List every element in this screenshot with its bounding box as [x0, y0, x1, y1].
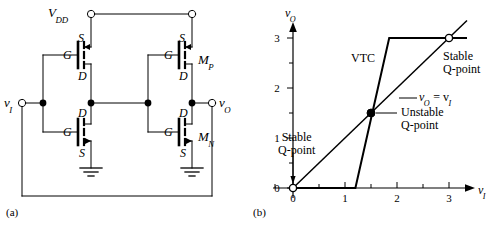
label-left-pmos-drain: D: [78, 70, 87, 82]
label-left-pmos-source: S: [78, 32, 84, 44]
terminal-vo: [208, 99, 215, 106]
label-left-nmos-gate: G: [63, 126, 72, 138]
panel-b-vtc-plot: 0 1 2 3 0 1 2 3 vO vI VTC vO = vI Unstab…: [245, 0, 491, 228]
label-left-pmos-gate: G: [63, 49, 72, 61]
annotation-stable-q-point-left-line2: Q-point: [278, 143, 315, 157]
q-point-stable-right: [445, 34, 452, 41]
terminal-vi: [18, 99, 25, 106]
leader-stable-left-arrow: [290, 176, 295, 184]
label-vo: vO: [219, 96, 231, 112]
label-right-nmos-drain: D: [179, 107, 188, 119]
annotation-unstable-q-point: Unstable Q-point: [401, 106, 444, 133]
label-mp: MP: [198, 53, 214, 69]
y-ticklabel-0: 0: [271, 182, 283, 194]
label-right-nmos-source: S: [180, 147, 186, 159]
panel-a-circuit-diagram: VDD vI vO S G D D G S S G D D G S MP MN …: [0, 0, 245, 228]
annotation-unstable-q-point-line2: Q-point: [401, 118, 438, 132]
arrow-right-nmos-source: [186, 138, 192, 144]
x-axis-arrowhead: [465, 184, 475, 192]
label-left-nmos-source: S: [79, 147, 85, 159]
label-left-nmos-drain: D: [78, 107, 87, 119]
label-right-pmos-drain: D: [179, 70, 188, 82]
annotation-stable-q-point-left: Stable Q-point: [278, 131, 315, 158]
label-mn: MN: [198, 130, 215, 146]
caption-panel-a: (a): [6, 206, 18, 218]
y-ticklabel-3: 3: [271, 32, 283, 44]
y-axis-label: vO: [285, 7, 296, 23]
annotation-stable-q-point-left-line1: Stable: [282, 130, 312, 144]
x-ticklabel-1: 1: [339, 192, 351, 204]
label-right-pmos-source: S: [179, 32, 185, 44]
x-ticklabel-2: 2: [391, 192, 403, 204]
arrow-left-nmos-source: [85, 138, 91, 144]
x-ticklabel-3: 3: [443, 192, 455, 204]
label-right-nmos-gate: G: [164, 126, 173, 138]
q-point-stable-left: [289, 184, 296, 191]
label-vdd: VDD: [48, 6, 69, 22]
x-ticklabel-0: 0: [287, 192, 299, 204]
x-axis-label: vI: [478, 184, 486, 200]
node-dot-vi: [40, 100, 47, 107]
terminal-vdd-right: [188, 10, 195, 17]
annotation-vtc: VTC: [351, 52, 375, 65]
q-point-unstable: [367, 109, 375, 117]
figure-root: VDD vI vO S G D D G S S G D D G S MP MN …: [0, 0, 491, 228]
annotation-stable-q-point-right-line2: Q-point: [443, 62, 480, 76]
annotation-unstable-q-point-line1: Unstable: [401, 105, 444, 119]
caption-panel-b: (b): [253, 206, 266, 218]
annotation-stable-q-point-right-line1: Stable: [443, 49, 473, 63]
annotation-stable-q-point-right: Stable Q-point: [443, 50, 480, 77]
label-vi: vI: [4, 96, 13, 112]
circuit-schematic-svg: [0, 0, 245, 228]
terminal-vdd-left: [87, 10, 94, 17]
label-right-pmos-gate: G: [164, 49, 173, 61]
y-ticklabel-2: 2: [271, 82, 283, 94]
